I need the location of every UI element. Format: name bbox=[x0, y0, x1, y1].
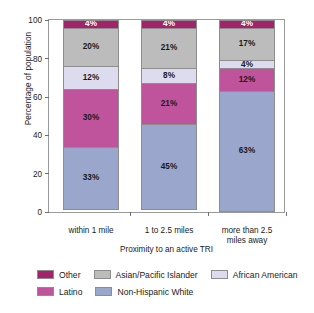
bar-segment[interactable]: 17% bbox=[219, 28, 275, 61]
y-axis-tick-label: 60 bbox=[22, 93, 42, 102]
y-axis-tick-mark bbox=[45, 212, 49, 213]
bar-segment-value-label: 21% bbox=[161, 44, 177, 52]
bar-group[interactable]: 4%20%12%30%33% bbox=[63, 20, 119, 212]
legend-color-swatch bbox=[37, 270, 54, 279]
legend-label: Asian/Pacific Islander bbox=[116, 270, 198, 280]
bar-segment[interactable]: 8% bbox=[141, 68, 197, 83]
y-axis-tick-label: 100 bbox=[22, 16, 42, 25]
x-axis-tick-mark bbox=[130, 212, 131, 216]
plot-area: 1008060402004%20%12%30%33%within 1 mile4… bbox=[48, 19, 285, 213]
bar-segment-value-label: 21% bbox=[161, 100, 177, 108]
bar-segment[interactable]: 21% bbox=[141, 28, 197, 68]
y-axis-tick-label: 0 bbox=[22, 208, 42, 217]
x-axis-tick-mark bbox=[286, 212, 287, 216]
bar-segment[interactable]: 4% bbox=[141, 20, 197, 28]
bar-segment[interactable]: 33% bbox=[63, 147, 119, 210]
legend-label: Latino bbox=[59, 287, 82, 297]
x-axis-tick-mark bbox=[208, 212, 209, 216]
y-axis-tick: 100 bbox=[22, 11, 49, 29]
bar-group[interactable]: 4%17%4%12%63% bbox=[219, 20, 275, 212]
legend-row-1: OtherAsian/Pacific IslanderAfrican Ameri… bbox=[37, 266, 314, 283]
legend-color-swatch bbox=[211, 270, 228, 279]
chart-legend: OtherAsian/Pacific IslanderAfrican Ameri… bbox=[37, 266, 314, 300]
bar-segment[interactable]: 12% bbox=[219, 68, 275, 91]
bar-segment[interactable]: 21% bbox=[141, 83, 197, 123]
x-axis-title: Proximity to an active TRI bbox=[48, 245, 285, 254]
y-axis-tick-label: 40 bbox=[22, 131, 42, 140]
y-axis-tick: 60 bbox=[22, 88, 49, 106]
x-axis-category-label: more than 2.5miles away bbox=[201, 226, 293, 246]
legend-label: Other bbox=[59, 270, 81, 280]
bar-segment-value-label: 12% bbox=[239, 76, 255, 84]
bar-segment[interactable]: 12% bbox=[63, 66, 119, 89]
bar-segment-value-label: 45% bbox=[161, 163, 177, 171]
bar-segment-value-label: 20% bbox=[83, 43, 99, 51]
y-axis-tick-mark bbox=[45, 173, 49, 174]
y-axis-tick-mark bbox=[45, 97, 49, 98]
y-axis-tick: 80 bbox=[22, 49, 49, 67]
legend-entry[interactable]: African American bbox=[211, 270, 311, 280]
legend-entry[interactable]: Non-Hispanic White bbox=[95, 287, 206, 297]
legend-label: Non-Hispanic White bbox=[117, 287, 193, 297]
legend-row-2: LatinoNon-Hispanic White bbox=[37, 283, 314, 300]
bar-segment[interactable]: 4% bbox=[219, 60, 275, 68]
stacked-bar-chart: Percentage of population 1008060402004%2… bbox=[0, 0, 314, 313]
bar-segment[interactable]: 30% bbox=[63, 89, 119, 147]
bar-segment-value-label: 4% bbox=[241, 61, 253, 68]
bar-segment-value-label: 4% bbox=[85, 20, 97, 27]
legend-color-swatch bbox=[37, 287, 54, 296]
legend-entry[interactable]: Latino bbox=[37, 287, 95, 297]
bar-segment[interactable]: 45% bbox=[141, 124, 197, 210]
bar-segment-value-label: 33% bbox=[83, 174, 99, 182]
bar-segment[interactable]: 63% bbox=[219, 91, 275, 212]
y-axis-tick-mark bbox=[45, 58, 49, 59]
y-axis-tick: 40 bbox=[22, 126, 49, 144]
legend-color-swatch bbox=[95, 287, 112, 296]
bar-segment-value-label: 4% bbox=[163, 20, 175, 27]
legend-entry[interactable]: Asian/Pacific Islander bbox=[94, 270, 211, 280]
legend-color-swatch bbox=[94, 270, 111, 279]
y-axis-tick-label: 20 bbox=[22, 170, 42, 179]
bar-segment-value-label: 8% bbox=[163, 72, 175, 80]
bar-segment-value-label: 17% bbox=[239, 40, 255, 48]
y-axis-tick-mark bbox=[45, 20, 49, 21]
bar-segment[interactable]: 4% bbox=[63, 20, 119, 28]
bar-segment-value-label: 63% bbox=[239, 147, 255, 155]
legend-label: African American bbox=[233, 270, 298, 280]
bar-segment-value-label: 12% bbox=[83, 74, 99, 82]
y-axis-tick-label: 80 bbox=[22, 55, 42, 64]
legend-entry[interactable]: Other bbox=[37, 270, 94, 280]
bar-segment[interactable]: 20% bbox=[63, 28, 119, 66]
bar-segment-value-label: 30% bbox=[83, 114, 99, 122]
y-axis-tick: 20 bbox=[22, 165, 49, 183]
bar-segment-value-label: 4% bbox=[241, 20, 253, 27]
y-axis-tick: 0 bbox=[22, 203, 49, 221]
y-axis-tick-mark bbox=[45, 135, 49, 136]
bar-group[interactable]: 4%21%8%21%45% bbox=[141, 20, 197, 212]
bar-segment[interactable]: 4% bbox=[219, 20, 275, 28]
